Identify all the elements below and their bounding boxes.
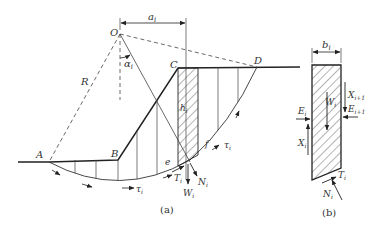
shear-stress-label-bottom: τi <box>136 184 143 195</box>
part-a-slope: O A B C D e f R ai αi hi τi τi Ti Ni Wi … <box>18 11 300 215</box>
ground-profile <box>18 67 300 162</box>
point-B-label: B <box>110 148 118 159</box>
shear-stress-arrow <box>52 170 60 175</box>
slope-stability-diagram: O A B C D e f R ai αi hi τi τi Ti Ni Wi … <box>0 0 376 235</box>
right-shear-label: Xi+1 <box>347 90 365 101</box>
hatched-slice-i <box>178 68 198 166</box>
angle-alpha-label: αi <box>124 58 133 71</box>
normal-force-arrow-a <box>190 163 197 176</box>
free-body-slice <box>312 65 341 180</box>
width-label: bi <box>322 39 331 52</box>
part-a-caption: (a) <box>160 204 174 215</box>
base-normal-label: Ni <box>322 189 333 200</box>
base-normal-arrow <box>332 180 342 200</box>
left-normal-label: Ei <box>297 106 307 117</box>
shear-stress-arrow <box>82 184 92 187</box>
shear-force-arrow-a <box>172 166 184 172</box>
shear-stress-arrow <box>163 175 172 178</box>
normal-force-label-a: Ni <box>197 177 208 188</box>
point-C-label: C <box>170 59 178 70</box>
part-b-caption: (b) <box>322 207 336 218</box>
right-normal-label: Ei+1 <box>347 104 365 115</box>
slice-lines <box>75 67 238 200</box>
radius-line-OD <box>120 34 257 67</box>
point-O-label: O <box>110 27 118 38</box>
left-shear-label: Xi <box>297 138 306 149</box>
part-b-free-body: bi Wi Ei Xi Xi+1 Ei+1 Ti Ni (b) <box>296 39 365 218</box>
shear-stress-arrow <box>236 111 239 118</box>
base-shear-label: Ti <box>338 170 346 181</box>
base-shear-arrow <box>322 177 336 183</box>
point-e-label: e <box>165 157 170 167</box>
point-D-label: D <box>253 55 262 66</box>
shear-force-label-a: Ti <box>174 173 182 184</box>
shear-stress-arrow <box>212 145 219 150</box>
shear-stress-label-right: τi <box>224 140 231 151</box>
radius-line-OA <box>49 34 120 162</box>
radius-label: R <box>80 76 89 87</box>
point-A-label: A <box>35 149 43 160</box>
weight-label-a: Wi <box>183 188 194 199</box>
moment-arm-label: ai <box>148 11 156 24</box>
